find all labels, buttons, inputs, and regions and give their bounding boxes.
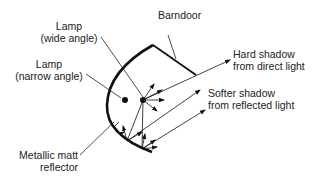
label-lamp-wide-1: Lamp — [38, 20, 100, 32]
label-reflector-2: reflector — [8, 161, 78, 173]
label-hard-shadow: Hard shadow from direct light — [233, 48, 305, 72]
label-hard-shadow-1: Hard shadow — [233, 48, 305, 60]
label-softer-shadow-1: Softer shadow — [208, 87, 294, 99]
label-lamp-narrow-2: (narrow angle) — [14, 70, 84, 82]
label-softer-shadow-2: from reflected light — [208, 99, 294, 111]
label-lamp-wide: Lamp (wide angle) — [38, 20, 100, 44]
label-barndoor: Barndoor — [158, 9, 201, 21]
barndoor — [153, 45, 196, 75]
label-lamp-narrow: Lamp (narrow angle) — [14, 58, 84, 82]
label-hard-shadow-2: from direct light — [233, 60, 305, 72]
label-lamp-wide-2: (wide angle) — [38, 32, 100, 44]
lamp-narrow-dot — [122, 97, 128, 103]
label-lamp-narrow-1: Lamp — [14, 58, 84, 70]
label-reflector-1: Metallic matt — [8, 149, 78, 161]
label-reflector: Metallic matt reflector — [8, 149, 78, 173]
label-softer-shadow: Softer shadow from reflected light — [208, 87, 294, 111]
